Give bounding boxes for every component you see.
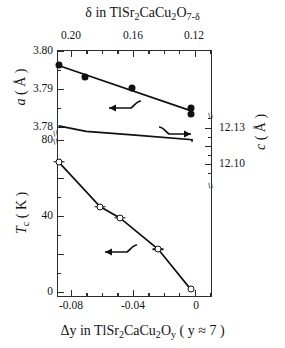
data-point-filled-circle [81,74,88,81]
tick-right-minor-3 [208,173,212,174]
tick-right-major-0 [205,128,212,129]
tick-top-3 [117,50,118,54]
tick-bottom-5 [148,293,149,297]
tick-top-0 [71,50,72,57]
tick-right-minor-2 [208,155,212,156]
tick-label-bottom-2: 0 [193,300,199,312]
tick-right-major-2 [205,164,212,165]
top-title-mid1: CaCu [139,5,171,20]
tick-label-bottom-0: -0.08 [59,300,83,312]
tick-top-7 [179,50,180,54]
tick-left-minor-4 [57,235,61,236]
tick-label-tc-2: 0 [47,286,53,298]
y-axis-label-tc: Tc ( K ) [15,178,31,248]
tick-label-top-0: 0.20 [61,30,81,42]
tick-left-major-7 [57,292,64,293]
tick-left-minor-1 [57,108,61,109]
data-point-open-circle [155,246,162,253]
arrow-a-left [101,96,145,118]
tick-top-1 [86,50,87,54]
figure-panel: δ in TlSr2CaCu2O7-δ Δy in TlSr2CaCu2Oy (… [0,0,285,348]
top-axis-title: δ in TlSr2CaCu2O7-δ [0,6,285,22]
y-axis-label-a: a ( Å ) [14,57,28,117]
tick-left-major-1 [57,89,64,90]
bottom-title-mid2: O [161,323,171,338]
tick-left-major-0 [57,51,64,52]
data-point-filled-circle [187,111,194,118]
data-point-open-circle [96,203,103,210]
bottom-title-post: ( y ≈ 7 ) [176,323,225,338]
tick-left-minor-0 [57,70,61,71]
arrow-c-right [155,122,199,144]
data-point-open-circle [187,286,194,293]
tick-bottom-9 [210,293,211,297]
tick-label-c-1: 12.10 [219,158,245,170]
tick-top-5 [148,50,149,54]
tick-bottom-4 [133,290,134,297]
data-point-open-circle [55,158,62,165]
tick-left-major-5 [57,216,64,217]
tick-left-major-6 [57,254,64,255]
top-title-mid2: O [176,5,186,20]
top-title-sub3: 7-δ [187,11,200,22]
tick-top-8 [195,50,196,57]
bottom-axis-title: Δy in TlSr2CaCu2Oy ( y ≈ 7 ) [0,324,285,340]
tick-label-top-2: 0.12 [184,30,204,42]
tick-top-6 [164,50,165,54]
bottom-title-pre: Δy in TlSr [60,323,119,338]
tick-label-a-0: 3.80 [33,45,53,57]
tick-left-minor-3 [57,197,61,198]
tick-bottom-6 [164,293,165,297]
data-point-filled-circle [55,62,62,69]
tick-label-top-1: 0.16 [123,30,143,42]
tick-bottom-2 [102,293,103,297]
y-axis-label-c: c ( Å ) [254,102,268,162]
data-point-open-circle [116,214,123,221]
tick-label-a-1: 3.79 [33,83,53,95]
bottom-title-mid1: CaCu [124,323,156,338]
tick-right-minor-1 [208,137,212,138]
tick-top-9 [210,50,211,54]
tick-bottom-1 [86,293,87,297]
tick-right-major-1 [205,146,212,147]
tick-bottom-0 [71,290,72,297]
tick-bottom-7 [179,293,180,297]
tick-label-tc-1: 40 [42,210,54,222]
tick-bottom-8 [195,290,196,297]
tick-label-bottom-1: -0.04 [121,300,145,312]
tick-left-major-4 [57,178,64,179]
top-title-pre: δ in TlSr [85,5,134,20]
tick-label-c-0: 12.13 [219,122,245,134]
tick-bottom-3 [117,293,118,297]
tick-top-2 [102,50,103,54]
tick-left-minor-5 [57,273,61,274]
tick-top-4 [133,50,134,57]
data-point-filled-circle [129,84,136,91]
arrow-tc-left [97,240,141,262]
